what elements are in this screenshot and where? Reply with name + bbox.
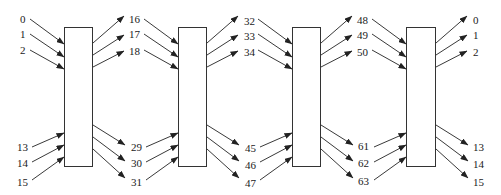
arrow [372, 34, 406, 57]
arrow [436, 149, 468, 178]
arrow [321, 149, 353, 178]
stage-4-box [407, 28, 436, 167]
network-diagram: 0 1 2 13 14 15 16 17 18 29 30 31 [0, 0, 501, 195]
arrow [436, 51, 467, 67]
arrow [258, 19, 292, 44]
arrow [144, 34, 178, 57]
arrow [258, 34, 292, 57]
arrow [372, 50, 406, 69]
arrow [260, 157, 292, 180]
label: 63 [358, 175, 370, 187]
label: 31 [131, 176, 142, 188]
arrow [93, 149, 125, 178]
label: 45 [245, 142, 257, 154]
column-0: 0 1 2 13 14 15 [17, 13, 64, 188]
arrow [207, 149, 239, 178]
label: 14 [17, 157, 29, 169]
arrow [321, 16, 352, 43]
label: 1 [473, 29, 479, 41]
label: 61 [358, 140, 369, 152]
column-1: 16 17 18 29 30 31 [93, 13, 178, 188]
label: 2 [20, 44, 26, 56]
arrow [207, 16, 238, 43]
arrow [436, 137, 468, 161]
label: 15 [17, 176, 29, 188]
label: 14 [473, 158, 485, 170]
arrow [321, 137, 353, 161]
arrow [32, 157, 64, 180]
column-2: 32 33 34 45 46 47 [207, 15, 292, 189]
arrow [32, 133, 64, 147]
label: 47 [245, 177, 257, 189]
arrow [32, 145, 64, 162]
arrow [260, 133, 292, 147]
label: 13 [17, 141, 29, 153]
arrow [207, 137, 239, 161]
label: 30 [131, 157, 143, 169]
label: 62 [358, 157, 369, 169]
label: 49 [357, 29, 369, 41]
stage-1-box [65, 28, 93, 167]
label: 50 [357, 46, 369, 58]
label: 32 [244, 15, 255, 27]
arrow [374, 157, 406, 180]
label: 48 [357, 14, 369, 26]
label: 16 [129, 13, 141, 25]
stage-3-box [293, 28, 321, 167]
arrow [260, 145, 292, 162]
label: 29 [131, 141, 143, 153]
arrow [436, 35, 467, 55]
arrow [30, 34, 64, 57]
arrow [372, 19, 406, 44]
column-4: 0 1 2 13 14 15 [436, 14, 485, 188]
arrow [93, 51, 124, 67]
label: 0 [20, 13, 26, 25]
arrow [207, 125, 239, 145]
label: 17 [129, 28, 141, 40]
arrow [436, 125, 468, 145]
arrow [146, 145, 178, 162]
arrow [374, 145, 406, 162]
arrow [207, 51, 238, 67]
arrow [321, 51, 352, 67]
arrow [144, 50, 178, 69]
arrow [321, 125, 353, 145]
arrow [207, 35, 238, 55]
arrow [436, 16, 467, 43]
arrow [30, 19, 64, 44]
arrow [144, 19, 178, 44]
arrow [374, 133, 406, 147]
stage-2-box [179, 28, 207, 167]
arrow [93, 137, 125, 161]
label: 13 [473, 141, 485, 153]
arrow [30, 50, 64, 69]
arrow [93, 35, 124, 55]
label: 0 [473, 14, 479, 26]
label: 15 [473, 176, 485, 188]
column-3: 48 49 50 61 62 63 [321, 14, 406, 187]
arrow [93, 125, 125, 145]
label: 2 [473, 46, 479, 58]
arrow [321, 35, 352, 55]
arrow [93, 16, 124, 43]
label: 34 [244, 46, 256, 58]
label: 18 [129, 45, 141, 57]
label: 46 [245, 159, 257, 171]
label: 33 [244, 30, 256, 42]
arrow [146, 157, 178, 180]
arrow [146, 133, 178, 147]
diagram-svg: 0 1 2 13 14 15 16 17 18 29 30 31 [0, 0, 501, 195]
arrow [258, 50, 292, 69]
label: 1 [20, 28, 26, 40]
